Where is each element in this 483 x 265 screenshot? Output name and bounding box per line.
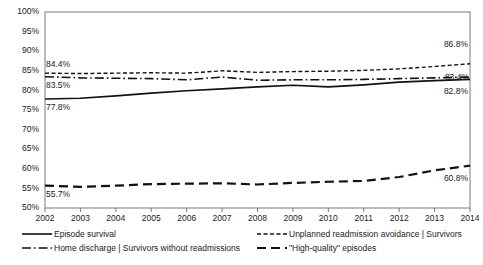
y-axis-tick-label: 70% — [22, 124, 39, 134]
data-label: 60.8% — [444, 173, 469, 183]
y-axis-tick-label: 65% — [22, 143, 39, 153]
y-axis-tick-label: 80% — [22, 85, 39, 95]
x-axis-tick-label: 2002 — [36, 213, 55, 223]
y-axis-tick-label: 95% — [22, 26, 39, 36]
legend-label-0[interactable]: Episode survival — [54, 229, 116, 239]
x-axis-tick-label: 2006 — [177, 213, 196, 223]
y-axis-tick-label: 75% — [22, 104, 39, 114]
y-axis-tick-label: 85% — [22, 65, 39, 75]
data-label: 55.7% — [46, 189, 71, 199]
data-label: 77.8% — [46, 102, 71, 112]
y-axis-tick-label: 50% — [22, 202, 39, 212]
x-axis-tick-label: 2009 — [283, 213, 302, 223]
data-label: 83.4% — [445, 72, 470, 82]
data-label: 84.4% — [46, 59, 71, 69]
line-chart: 50%55%60%65%70%75%80%85%90%95%100% 20022… — [0, 0, 483, 265]
x-axis-tick-label: 2008 — [248, 213, 267, 223]
legend-label-3[interactable]: "High-quality" episodes — [289, 243, 376, 253]
y-axis-tick-label: 90% — [22, 45, 39, 55]
y-axis-tick-label: 100% — [17, 6, 39, 16]
x-axis-tick-label: 2005 — [142, 213, 161, 223]
x-axis-tick-label: 2012 — [390, 213, 409, 223]
data-label: 83.5% — [46, 80, 71, 90]
legend-label-2[interactable]: Home discharge | Survivors without readm… — [54, 243, 240, 253]
x-axis-tick-label: 2013 — [425, 213, 444, 223]
chart-canvas: 50%55%60%65%70%75%80%85%90%95%100% 20022… — [0, 0, 483, 265]
x-axis-tick-label: 2011 — [355, 213, 374, 223]
data-label: 82.8% — [444, 86, 469, 96]
legend-label-1[interactable]: Unplanned readmission avoidance | Surviv… — [289, 229, 462, 239]
x-axis-tick-label: 2004 — [106, 213, 125, 223]
x-axis-tick-label: 2007 — [213, 213, 232, 223]
y-axis-tick-label: 60% — [22, 163, 39, 173]
x-axis-tick-label: 2010 — [319, 213, 338, 223]
y-axis-tick-label: 55% — [22, 183, 39, 193]
x-axis-tick-label: 2014 — [461, 213, 480, 223]
chart-background — [0, 0, 483, 265]
x-axis-tick-label: 2003 — [71, 213, 90, 223]
data-label: 86.8% — [444, 39, 469, 49]
